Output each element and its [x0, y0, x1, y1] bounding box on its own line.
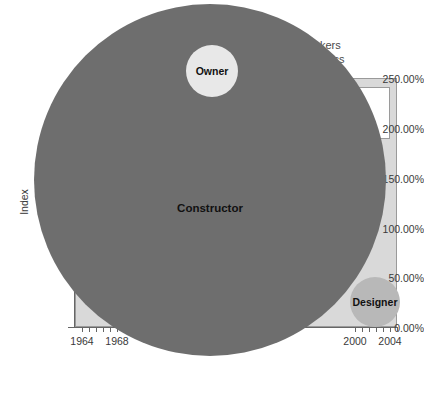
x-tick-mark — [397, 327, 398, 332]
x-tick-mark — [110, 327, 111, 332]
bubble-owner[interactable]: Owner — [186, 45, 238, 97]
x-tick-mark — [355, 327, 356, 332]
bubble-owner-label: Owner — [196, 65, 229, 77]
y-axis-title: Index — [18, 172, 30, 232]
x-tick-mark — [369, 327, 370, 332]
bubble-constructor-label: Constructor — [177, 202, 243, 214]
x-tick-mark — [362, 327, 363, 332]
x-tick-mark — [390, 327, 391, 332]
x-tick-mark — [89, 327, 90, 332]
x-axis-label-2004: 2004 — [370, 336, 410, 347]
x-axis-label-1964: 1964 — [62, 336, 102, 347]
x-tick-mark — [96, 327, 97, 332]
x-axis-label-2000: 2000 — [335, 336, 375, 347]
bubble-designer-label: Designer — [353, 296, 398, 308]
y-tick-mark — [68, 327, 75, 328]
chart-canvas: 0.00% 50.00% 100.00% 150.00% 200.00% 250… — [0, 0, 424, 394]
x-tick-mark — [103, 327, 104, 332]
bubble-designer[interactable]: Designer — [350, 277, 400, 327]
x-tick-mark — [82, 327, 83, 332]
y-axis-label-250: 250.00% — [354, 74, 424, 85]
x-tick-mark — [383, 327, 384, 332]
x-tick-mark — [376, 327, 377, 332]
